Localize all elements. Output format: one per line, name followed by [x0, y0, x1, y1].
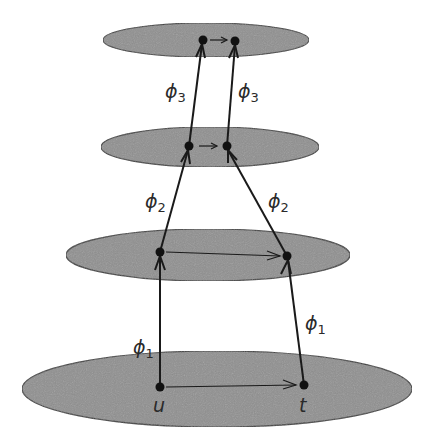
- node-l3-right: [223, 142, 232, 151]
- label-phi1-right: ϕ1: [305, 312, 326, 337]
- node-t: [300, 381, 309, 390]
- node-l4-left: [199, 36, 208, 45]
- label-phi1-left: ϕ1: [133, 336, 154, 361]
- node-l2-left: [156, 248, 165, 257]
- label-phi2-right: ϕ2: [268, 190, 289, 215]
- node-l3-left: [185, 142, 194, 151]
- layer-ellipse-2: [66, 229, 350, 281]
- hierarchy-diagram: u t ϕ1 ϕ1 ϕ2 ϕ2 ϕ3 ϕ3: [0, 0, 441, 443]
- label-phi3-right: ϕ3: [238, 80, 259, 105]
- label-u: u: [153, 394, 165, 416]
- label-phi3-left: ϕ3: [165, 80, 186, 105]
- label-phi2-left: ϕ2: [145, 190, 166, 215]
- layer-ellipse-3: [101, 127, 319, 167]
- node-l4-right: [231, 37, 240, 46]
- node-u: [156, 383, 165, 392]
- layer-ellipse-1: [22, 351, 412, 427]
- node-l2-right: [283, 252, 292, 261]
